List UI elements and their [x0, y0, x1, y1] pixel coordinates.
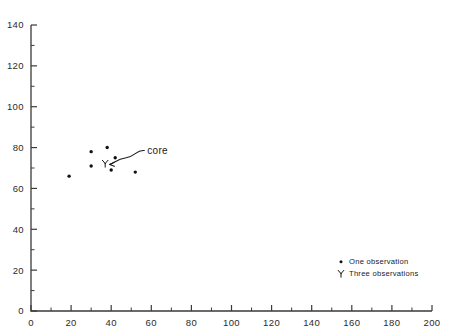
x-axis-tick-label: 40 [106, 317, 117, 328]
y-axis-tick-label: 60 [13, 183, 24, 194]
chart-figure: 0204060801001201401601802000204060801001… [0, 0, 449, 336]
y-axis-tick-label: 0 [18, 305, 24, 316]
core-leader-arrowhead [110, 162, 115, 166]
x-axis-tick-label: 80 [186, 317, 197, 328]
data-point-one-observation [134, 170, 137, 173]
y-axis-tick-label: 100 [7, 101, 24, 112]
legend-label: One observation [349, 257, 408, 266]
y-axis-tick-label: 40 [13, 224, 24, 235]
y-axis-tick-label: 20 [13, 265, 24, 276]
x-axis-tick-label: 180 [383, 317, 400, 328]
data-point-one-observation [105, 146, 108, 149]
data-point-one-observation [89, 164, 92, 167]
y-axis-tick-label: 120 [7, 60, 24, 71]
x-axis-tick-label: 20 [65, 317, 76, 328]
data-point-one-observation [114, 156, 117, 159]
scatter-plot-canvas: 0204060801001201401601802000204060801001… [0, 0, 449, 336]
legend-marker-three-observations [338, 270, 344, 277]
data-point-one-observation [67, 174, 70, 177]
x-axis-tick-label: 60 [146, 317, 157, 328]
x-axis-tick-label: 0 [28, 317, 34, 328]
x-axis-tick-label: 120 [263, 317, 280, 328]
legend-marker-one-observation [340, 260, 343, 263]
data-point-three-observations [102, 160, 108, 167]
x-axis-tick-label: 100 [223, 317, 240, 328]
core-annotation-label: core [147, 145, 168, 156]
x-axis-tick-label: 160 [343, 317, 360, 328]
x-axis-tick-label: 200 [423, 317, 440, 328]
legend-label: Three observations [349, 269, 419, 278]
data-point-one-observation [110, 168, 113, 171]
y-axis-tick-label: 80 [13, 142, 24, 153]
data-point-one-observation [89, 150, 92, 153]
y-axis-tick-label: 140 [7, 19, 24, 30]
x-axis-tick-label: 140 [303, 317, 320, 328]
